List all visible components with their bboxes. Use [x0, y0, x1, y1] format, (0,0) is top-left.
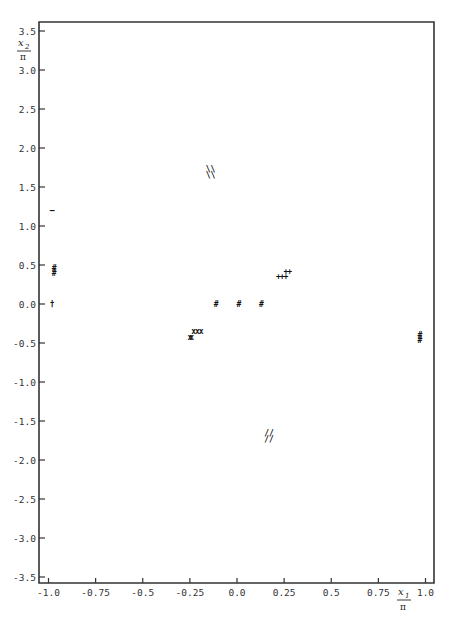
data-point-cross-upper: x — [199, 327, 204, 336]
y-tick-label: 3.5 — [19, 26, 36, 37]
data-point-hash-center: # — [214, 300, 219, 309]
y-tick-label: 1.0 — [19, 221, 36, 232]
data-point-hash-center: # — [259, 300, 264, 309]
y-tick-label: 1.5 — [19, 182, 36, 193]
data-point-double-slash-lower: // — [264, 435, 274, 444]
data-point-hash-right: # — [417, 336, 422, 345]
y-axis-label-subscript: 2 — [24, 43, 30, 51]
x-tick-label: -1.0 — [37, 587, 60, 598]
x-tick-label: -0.25 — [176, 587, 205, 598]
data-point-dash: – — [50, 206, 55, 215]
y-tick-label: 2.5 — [19, 104, 36, 115]
x-tick-label: 1.0 — [417, 587, 434, 598]
x-axis-label: x 1 π — [397, 586, 411, 612]
y-axis-label-pi: π — [20, 52, 26, 62]
x-axis-label-pi: π — [400, 602, 406, 612]
y-tick-label: -3.5 — [13, 572, 36, 583]
x-tick-label: -0.75 — [81, 587, 110, 598]
data-point-cross-lower: x — [189, 333, 194, 342]
x-tick-label: 0.5 — [323, 587, 340, 598]
y-axis-label-x: x — [18, 37, 24, 48]
data-point-double-slash-upper: \\ — [206, 171, 216, 180]
y-tick-label: -2.0 — [13, 455, 36, 466]
data-point-hash-left: # — [52, 269, 57, 278]
data-point-dagger: † — [50, 300, 55, 309]
x-tick-label: 0.0 — [228, 587, 245, 598]
data-point-hash-center: # — [236, 300, 241, 309]
y-tick-label: -1.0 — [13, 377, 36, 388]
scatter-chart: 3.53.02.52.01.51.00.50.0-0.5-1.0-1.5-2.0… — [0, 0, 452, 621]
y-axis-label: x 2 π — [17, 37, 31, 62]
y-tick-label: -3.0 — [13, 533, 36, 544]
y-axis-ticks: 3.53.02.52.01.51.00.50.0-0.5-1.0-1.5-2.0… — [13, 26, 45, 583]
y-tick-label: 2.0 — [19, 143, 36, 154]
y-tick-label: -0.5 — [13, 338, 36, 349]
y-tick-label: -1.5 — [13, 416, 36, 427]
x-axis-label-subscript: 1 — [405, 592, 409, 600]
data-point-plus: + — [287, 267, 292, 276]
x-axis-ticks: -1.0-0.75-0.5-0.250.00.250.50.751.0 — [37, 578, 434, 598]
x-tick-label: 0.25 — [273, 587, 296, 598]
y-tick-label: -2.5 — [13, 494, 36, 505]
data-points: –##†\\\\xxxxx###+++++////## — [50, 165, 423, 444]
x-tick-label: -0.5 — [131, 587, 154, 598]
y-tick-label: 3.0 — [19, 65, 36, 76]
y-tick-label: 0.5 — [19, 260, 36, 271]
x-tick-label: 0.75 — [367, 587, 390, 598]
x-axis-label-x: x — [398, 586, 404, 597]
y-tick-label: 0.0 — [19, 299, 36, 310]
